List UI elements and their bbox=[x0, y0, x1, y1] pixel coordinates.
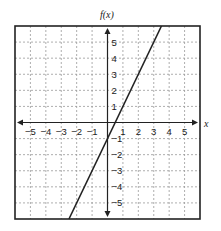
y-tick-label: 1 bbox=[112, 101, 117, 112]
y-tick-label: 4 bbox=[112, 53, 117, 64]
y-axis-label: f(x) bbox=[100, 9, 115, 21]
x-tick-label: 2 bbox=[136, 126, 141, 137]
x-tick-label: −1 bbox=[87, 126, 98, 137]
x-axis-label: x bbox=[203, 118, 209, 129]
x-tick-label: 5 bbox=[182, 126, 187, 137]
x-tick-label: −2 bbox=[71, 126, 82, 137]
y-tick-label: −1 bbox=[112, 133, 123, 144]
y-tick-label: 3 bbox=[112, 69, 117, 80]
y-axis-down-arrow-icon bbox=[105, 211, 111, 217]
x-tick-label: −4 bbox=[40, 126, 51, 137]
y-tick-label: −5 bbox=[112, 197, 123, 208]
y-tick-label: −4 bbox=[112, 181, 123, 192]
x-tick-label: 4 bbox=[167, 126, 172, 137]
y-tick-label: 5 bbox=[112, 37, 117, 48]
y-tick-label: 2 bbox=[112, 85, 117, 96]
x-axis-right-arrow-icon bbox=[192, 120, 198, 126]
function-graph: −5−4−3−2−11234554321−1−2−3−4−5 f(x) x bbox=[0, 0, 221, 231]
x-axis-left-arrow-icon bbox=[17, 120, 23, 126]
x-tick-label: −5 bbox=[25, 126, 36, 137]
x-tick-label: −3 bbox=[56, 126, 67, 137]
y-axis-up-arrow-icon bbox=[105, 28, 111, 34]
x-tick-label: 3 bbox=[151, 126, 156, 137]
y-tick-label: −2 bbox=[112, 149, 123, 160]
axes bbox=[17, 28, 198, 217]
y-tick-label: −3 bbox=[112, 165, 123, 176]
